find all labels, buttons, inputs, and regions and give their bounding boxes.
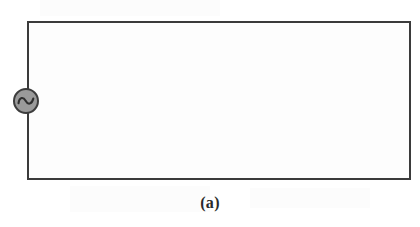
scan-artifact: [40, 0, 220, 16]
figure-caption: (a): [0, 192, 420, 214]
figure-panel-a: (a): [0, 0, 420, 227]
circuit-loop: [27, 21, 411, 180]
ac-voltage-source-icon: [13, 88, 39, 114]
